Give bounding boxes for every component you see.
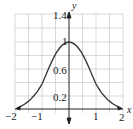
y-tick-0-2: 0.2 [53,91,67,103]
x-axis-label: x [126,104,132,115]
x-tick-neg1: −1 [31,110,43,122]
chart: −2 −1 1 2 0.2 0.6 1 1.4 y x [0,0,133,129]
x-tick-2: 2 [119,111,125,123]
y-axis-label: y [71,0,77,11]
curve-arrow-right-icon [117,106,123,111]
y-tick-0-6: 0.6 [53,64,67,76]
y-axis-arrow-down-icon [67,118,71,124]
axes [15,12,123,124]
x-tick-neg2: −2 [5,110,17,122]
y-axis-arrow-up-icon [67,12,71,18]
y-tick-1: 1 [62,35,68,47]
y-tick-1-4: 1.4 [53,9,67,21]
x-tick-1: 1 [93,110,99,122]
